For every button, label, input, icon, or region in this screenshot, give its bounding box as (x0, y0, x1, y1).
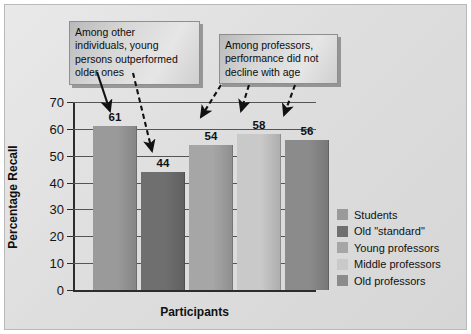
legend-swatch (337, 209, 348, 220)
callout-line: persons outperformed (75, 53, 194, 66)
y-axis-tick-label: 40 (50, 175, 64, 190)
legend-item: Young professors (337, 241, 441, 254)
chart-figure: Percentage Recall 706050403020100 614454… (4, 4, 467, 330)
bar (237, 134, 281, 290)
legend-label: Old professors (354, 275, 426, 287)
plot-area: 706050403020100 6144545856 (73, 102, 316, 292)
x-axis-line (73, 290, 316, 292)
bar-value-label: 58 (253, 119, 266, 131)
legend-swatch (337, 242, 348, 253)
callout-line: Among professors, (225, 39, 332, 52)
bar (93, 126, 137, 290)
y-axis-tick (67, 102, 73, 103)
y-axis-tick (67, 290, 73, 291)
annotation-callout-other-individuals: Among other individuals, young persons o… (69, 21, 200, 85)
legend-item: Old professors (337, 274, 441, 287)
legend-item: Old "standard" (337, 225, 441, 238)
y-axis-tick-label: 0 (57, 283, 64, 298)
y-axis-tick-label: 60 (50, 121, 64, 136)
y-axis-tick (67, 129, 73, 130)
callout-line: decline with age (225, 66, 332, 79)
gridline (73, 102, 316, 103)
callout-line: performance did not (225, 52, 332, 65)
legend-swatch (337, 275, 348, 286)
bar-value-label: 44 (157, 157, 170, 169)
bar-value-label: 61 (109, 111, 122, 123)
legend-label: Old "standard" (354, 225, 425, 237)
y-axis-tick-label: 30 (50, 202, 64, 217)
x-axis-title: Participants (73, 305, 316, 319)
callout-line: individuals, young (75, 39, 194, 52)
legend-item: Students (337, 208, 441, 221)
legend: StudentsOld "standard"Young professorsMi… (337, 208, 441, 291)
y-axis-tick-label: 10 (50, 256, 64, 271)
y-axis-tick (67, 209, 73, 210)
y-axis-tick (67, 183, 73, 184)
y-axis-tick-label: 50 (50, 148, 64, 163)
legend-label: Middle professors (354, 258, 441, 270)
y-axis-title: Percentage Recall (6, 145, 20, 248)
callout-line: Among other (75, 26, 194, 39)
y-axis-tick (67, 263, 73, 264)
bar-value-label: 56 (301, 125, 314, 137)
annotation-callout-professors: Among professors, performance did not de… (219, 34, 338, 84)
legend-swatch (337, 226, 348, 237)
y-axis-tick (67, 156, 73, 157)
bar (189, 145, 233, 290)
legend-swatch (337, 259, 348, 270)
legend-label: Young professors (354, 242, 439, 254)
y-axis-tick-label: 20 (50, 229, 64, 244)
legend-item: Middle professors (337, 258, 441, 271)
y-axis-tick-label: 70 (50, 95, 64, 110)
bar (141, 172, 185, 290)
callout-line: older ones (75, 66, 194, 79)
legend-label: Students (354, 209, 397, 221)
y-axis-tick (67, 236, 73, 237)
bar (285, 140, 329, 290)
bar-value-label: 54 (205, 130, 218, 142)
